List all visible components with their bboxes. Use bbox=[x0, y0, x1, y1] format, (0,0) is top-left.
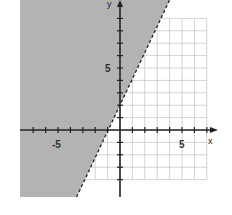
inequality-graph: x y -5 5 5 bbox=[0, 0, 232, 215]
x-axis-label: x bbox=[208, 136, 213, 146]
x-tick-label-pos5: 5 bbox=[179, 139, 185, 150]
y-axis-label: y bbox=[107, 0, 112, 9]
y-tick-label-pos5: 5 bbox=[105, 63, 111, 74]
x-tick-label-neg5: -5 bbox=[52, 139, 61, 150]
